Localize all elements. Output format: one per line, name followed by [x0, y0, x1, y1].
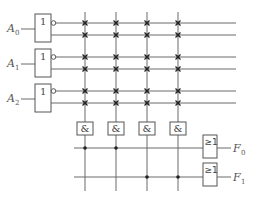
- and-gate-0: &: [77, 122, 93, 135]
- or-gate-label: ≥1: [205, 137, 218, 147]
- input-label: A: [6, 57, 15, 70]
- input-buffer-0: A01: [6, 14, 236, 42]
- connection-dot-icon: [114, 146, 118, 150]
- or-gate-1: ≥1F1: [74, 163, 245, 186]
- input-buffer-1: A11: [6, 49, 236, 77]
- output-label: F: [232, 142, 241, 155]
- connection-dot-icon: [145, 175, 149, 179]
- input-subscript: 1: [15, 64, 19, 72]
- or-gate-0: ≥1F0: [74, 135, 245, 158]
- input-subscript: 0: [15, 29, 19, 37]
- and-gate-label: &: [112, 123, 121, 134]
- and-gate-2: &: [139, 122, 155, 135]
- and-gate-label: &: [174, 123, 183, 134]
- connection-dot-icon: [176, 175, 180, 179]
- gate-label: 1: [40, 86, 46, 97]
- input-label: A: [6, 92, 15, 105]
- output-subscript: 1: [241, 178, 245, 186]
- input-label: A: [6, 22, 15, 35]
- inverter-bubble: [51, 89, 56, 94]
- inverter-bubble: [51, 55, 56, 60]
- connection-dot-icon: [83, 146, 87, 150]
- output-label: F: [232, 171, 241, 184]
- gate-label: 1: [40, 51, 46, 62]
- input-subscript: 2: [15, 99, 19, 107]
- and-gate-label: &: [81, 123, 90, 134]
- and-gate-label: &: [143, 123, 152, 134]
- and-gate-1: &: [108, 122, 124, 135]
- inverter-bubble: [51, 21, 56, 26]
- output-subscript: 0: [241, 149, 245, 157]
- input-buffer-2: A21: [6, 84, 236, 112]
- and-gate-3: &: [170, 122, 186, 135]
- gate-label: 1: [40, 16, 46, 27]
- pla-diagram: A01A11A21 &&&& ≥1F0≥1F1: [0, 0, 253, 205]
- or-gate-label: ≥1: [205, 165, 218, 175]
